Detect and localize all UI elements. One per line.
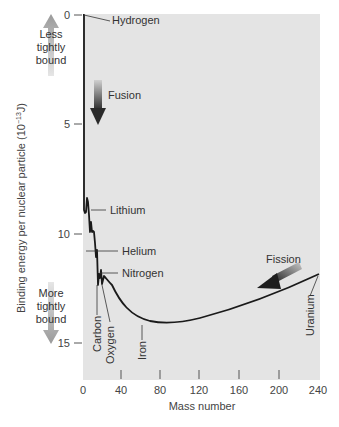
x-tick-200: 200	[270, 384, 288, 396]
x-tick-80: 80	[154, 384, 166, 396]
label-less-1: Less	[39, 28, 63, 40]
plot-area	[83, 14, 320, 380]
label-helium: Helium	[122, 245, 156, 257]
label-more-1: More	[38, 287, 63, 299]
x-tick-240: 240	[309, 384, 327, 396]
label-carbon: Carbon	[91, 316, 103, 352]
x-axis-title: Mass number	[169, 400, 236, 412]
label-less-2: tightly	[37, 41, 66, 53]
label-fission: Fission	[266, 253, 301, 265]
y-axis-title-end: J)	[15, 103, 27, 112]
x-tick-120: 120	[190, 384, 208, 396]
y-tick-5: 5	[64, 118, 70, 130]
label-fusion: Fusion	[108, 89, 141, 101]
y-tick-15: 15	[58, 337, 70, 349]
x-tick-0: 0	[80, 384, 86, 396]
y-axis-title-exp: −13	[15, 112, 22, 124]
binding-energy-chart: 0 5 10 15 0 40 80 120 160 200 240 Mass n…	[0, 0, 339, 427]
label-more-2: tightly	[37, 300, 66, 312]
label-more-3: bound	[36, 313, 67, 325]
y-axis-title: Binding energy per nuclear particle (10−…	[15, 103, 27, 313]
label-iron: Iron	[136, 341, 148, 360]
label-oxygen: Oxygen	[104, 326, 116, 364]
label-hydrogen: Hydrogen	[112, 14, 160, 26]
label-lithium: Lithium	[110, 204, 145, 216]
x-tick-40: 40	[115, 384, 127, 396]
y-tick-10: 10	[58, 228, 70, 240]
label-nitrogen: Nitrogen	[122, 267, 164, 279]
x-tick-160: 160	[230, 384, 248, 396]
label-uranium: Uranium	[304, 294, 316, 336]
label-less-3: bound	[36, 54, 67, 66]
y-axis-title-main: Binding energy per nuclear particle (10	[15, 124, 27, 313]
y-tick-0: 0	[64, 9, 70, 21]
